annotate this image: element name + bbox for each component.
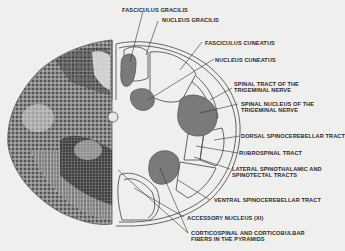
label-lateral-spinothalamic: LATERAL SPINOTHALAMIC ANDSPINOTECTAL TRA…: [232, 166, 322, 179]
accessory-nucleus-shape: [149, 151, 179, 184]
label-text: RUBROSPINAL TRACT: [239, 150, 302, 156]
label-spinal-nucleus-trigeminal: SPINAL NUCLEUS OF THETRIGEMINAL NERVE: [241, 101, 314, 114]
label-text: TRIGEMINAL NERVE: [234, 87, 299, 93]
label-text: SPINOTECTAL TRACTS: [232, 172, 322, 178]
label-nucleus-cuneatus: NUCLEUS CUNEATUS: [215, 57, 276, 63]
label-text: FASCICULUS CUNEATUS: [205, 40, 275, 46]
label-accessory-nucleus: ACCESSORY NUCLEUS (XI): [187, 215, 263, 221]
label-text: FIBERS IN THE PYRAMIDS: [191, 236, 305, 242]
label-text: NUCLEUS CUNEATUS: [215, 57, 276, 63]
label-text: VENTRAL SPINOCEREBELLAR TRACT: [214, 197, 321, 203]
label-nucleus-gracilis: NUCLEUS GRACILIS: [162, 17, 219, 23]
nuclei: [121, 54, 217, 184]
stained-tissue-half: [8, 40, 118, 225]
label-text: DORSAL SPINOCEREBELLAR TRACT: [241, 133, 345, 139]
label-spinal-tract-trigeminal: SPINAL TRACT OF THETRIGEMINAL NERVE: [234, 81, 299, 94]
label-fasciculus-gracilis: FASCICULUS GRACILIS: [122, 7, 188, 13]
label-corticospinal: CORTICOSPINAL AND CORTICOBULBARFIBERS IN…: [191, 230, 305, 243]
label-text: TRIGEMINAL NERVE: [241, 107, 314, 113]
label-fasciculus-cuneatus: FASCICULUS CUNEATUS: [205, 40, 275, 46]
nucleus-cuneatus-shape: [130, 89, 154, 111]
label-ventral-spinocerebellar: VENTRAL SPINOCEREBELLAR TRACT: [214, 197, 321, 203]
nucleus-gracilis-shape: [121, 54, 136, 86]
label-text: FASCICULUS GRACILIS: [122, 7, 188, 13]
spinal-nucleus-trigeminal-shape: [178, 95, 217, 136]
label-rubrospinal: RUBROSPINAL TRACT: [239, 150, 302, 156]
label-dorsal-spinocerebellar: DORSAL SPINOCEREBELLAR TRACT: [241, 133, 345, 139]
label-text: ACCESSORY NUCLEUS (XI): [187, 215, 263, 221]
label-text: NUCLEUS GRACILIS: [162, 17, 219, 23]
